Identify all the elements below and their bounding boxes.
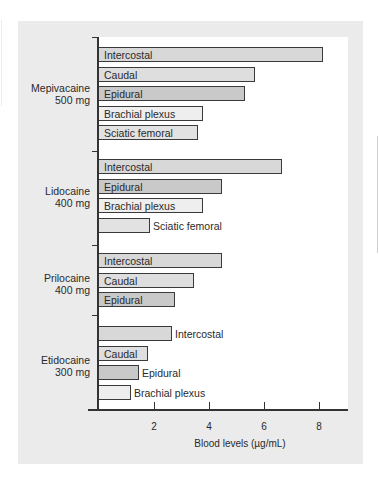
drug-dose: 400 mg xyxy=(10,197,90,209)
bar-label: Brachial plexus xyxy=(134,386,205,400)
bar-label: Epidural xyxy=(104,180,143,194)
bar-intercostal xyxy=(98,326,172,341)
bar-epidural: Epidural xyxy=(98,86,245,101)
drug-name: Etidocaine xyxy=(10,354,90,366)
bar-epidural: Epidural xyxy=(98,292,175,307)
x-tick-label: 4 xyxy=(199,421,219,432)
y-axis-tick xyxy=(92,245,98,246)
bar-label: Caudal xyxy=(104,274,137,288)
bar-label: Epidural xyxy=(142,366,181,380)
page-edge-line xyxy=(377,136,378,253)
x-axis xyxy=(88,409,348,411)
bar-brachial-plexus xyxy=(98,385,131,400)
bar-epidural xyxy=(98,365,139,380)
y-axis-tick xyxy=(92,315,98,316)
bar-sciatic-femoral: Sciatic femoral xyxy=(98,125,198,140)
group-label-lidocaine: Lidocaine 400 mg xyxy=(10,185,90,209)
bar-label: Brachial plexus xyxy=(104,199,175,213)
drug-dose: 400 mg xyxy=(10,284,90,296)
x-tick-label: 2 xyxy=(144,421,164,432)
x-axis-tick xyxy=(209,402,210,409)
bar-label: Epidural xyxy=(104,87,143,101)
y-axis-tick xyxy=(92,37,98,38)
group-label-prilocaine: Prilocaine 400 mg xyxy=(10,272,90,296)
bar-caudal: Caudal xyxy=(98,67,255,82)
y-axis xyxy=(97,37,99,411)
x-tick-label: 6 xyxy=(254,421,274,432)
drug-dose: 500 mg xyxy=(10,94,90,106)
bar-brachial-plexus: Brachial plexus xyxy=(98,198,203,213)
bar-brachial-plexus: Brachial plexus xyxy=(98,106,203,121)
bar-intercostal: Intercostal xyxy=(98,47,323,62)
group-label-mepivacaine: Mepivacaine 500 mg xyxy=(10,82,90,106)
x-tick-label: 8 xyxy=(309,421,329,432)
bar-epidural: Epidural xyxy=(98,179,222,194)
drug-dose: 300 mg xyxy=(10,366,90,378)
group-label-etidocaine: Etidocaine 300 mg xyxy=(10,354,90,378)
page-edge-line xyxy=(1,20,2,106)
bar-intercostal: Intercostal xyxy=(98,159,282,174)
bar-label: Sciatic femoral xyxy=(153,219,222,233)
bar-label: Epidural xyxy=(104,293,143,307)
x-axis-title: Blood levels (µg/mL) xyxy=(160,438,320,449)
bar-label: Caudal xyxy=(104,68,137,82)
bar-caudal: Caudal xyxy=(98,273,194,288)
bar-label: Sciatic femoral xyxy=(104,126,173,140)
drug-name: Mepivacaine xyxy=(10,82,90,94)
drug-name: Lidocaine xyxy=(10,185,90,197)
bar-label: Intercostal xyxy=(104,160,152,174)
bar-label: Caudal xyxy=(104,347,137,361)
bar-label: Intercostal xyxy=(104,254,152,268)
y-axis-tick xyxy=(92,151,98,152)
bar-intercostal: Intercostal xyxy=(98,253,222,268)
drug-name: Prilocaine xyxy=(10,272,90,284)
bar-caudal: Caudal xyxy=(98,346,148,361)
bar-label: Intercostal xyxy=(104,48,152,62)
x-axis-tick xyxy=(154,402,155,409)
bar-sciatic-femoral xyxy=(98,218,150,233)
bar-label: Brachial plexus xyxy=(104,107,175,121)
x-axis-tick xyxy=(319,402,320,409)
x-axis-tick xyxy=(264,402,265,409)
bar-label: Intercostal xyxy=(175,327,223,341)
